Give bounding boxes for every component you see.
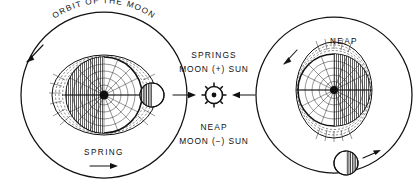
springs-heading: SPRINGS xyxy=(191,50,236,60)
left-moon-icon xyxy=(140,83,164,107)
right-earth-globe-icon xyxy=(296,54,372,126)
springs-formula: MOON (+) SUN xyxy=(179,64,249,74)
neap-formula: MOON (−) SUN xyxy=(179,136,249,146)
left-earth-globe-icon xyxy=(62,57,146,133)
left-to-sun-arrow-icon xyxy=(173,92,196,98)
right-motion-arrow-icon xyxy=(363,150,381,158)
left-orbit-label: ORBIT OF THE MOON xyxy=(51,0,158,20)
center-panel-sun: SPRINGS MOON (+) SUN xyxy=(173,50,255,146)
tide-diagram-figure: ORBIT OF THE MOON xyxy=(0,0,419,186)
right-phase-label: NEAP xyxy=(330,37,358,46)
left-phase-label: SPRING xyxy=(84,148,124,157)
left-panel-spring-tide: ORBIT OF THE MOON xyxy=(21,0,187,178)
left-orbit-direction-arrow-icon xyxy=(27,45,43,62)
right-to-sun-arrow-icon xyxy=(232,92,255,98)
left-motion-arrow-icon xyxy=(90,163,118,169)
diagram-canvas: ORBIT OF THE MOON xyxy=(0,0,419,186)
sun-icon xyxy=(202,83,227,108)
right-moon-icon xyxy=(334,151,358,175)
neap-heading: NEAP xyxy=(200,122,227,132)
right-panel-neap-tide: NEAP xyxy=(256,17,412,175)
right-orbit-direction-arrow-icon xyxy=(284,50,297,64)
